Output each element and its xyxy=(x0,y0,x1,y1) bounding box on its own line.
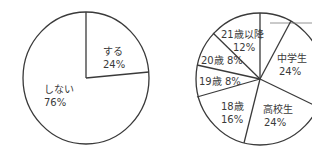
slice-label-21plus: 21歳以降 xyxy=(221,28,264,40)
slice-label-suru: する xyxy=(103,46,123,57)
slice-label-kokosei: 高校生 xyxy=(263,103,293,115)
slice-pct-kokosei: 24% xyxy=(264,117,286,128)
slice-pct-chugakusei: 24% xyxy=(279,66,301,77)
pie-chart-left xyxy=(23,12,149,144)
slice-label-shinai: しない xyxy=(44,84,74,95)
slice-label-19: 19歳 8% xyxy=(199,76,241,87)
slice-label-chugakusei: 中学生 xyxy=(277,52,307,64)
slice-pct-suru: 24% xyxy=(103,59,125,70)
slice-pct-18: 16% xyxy=(221,114,243,125)
slice-pct-21plus: 12% xyxy=(233,42,255,53)
slice-pct-shinai: 76% xyxy=(44,97,66,108)
charts-canvas: する 24% しない 76% 中学生 24% 高校生 24% 18歳 16% 1… xyxy=(0,0,312,152)
slice-label-20: 20歳 8% xyxy=(201,55,243,66)
slice-label-18: 18歳 xyxy=(221,101,244,112)
